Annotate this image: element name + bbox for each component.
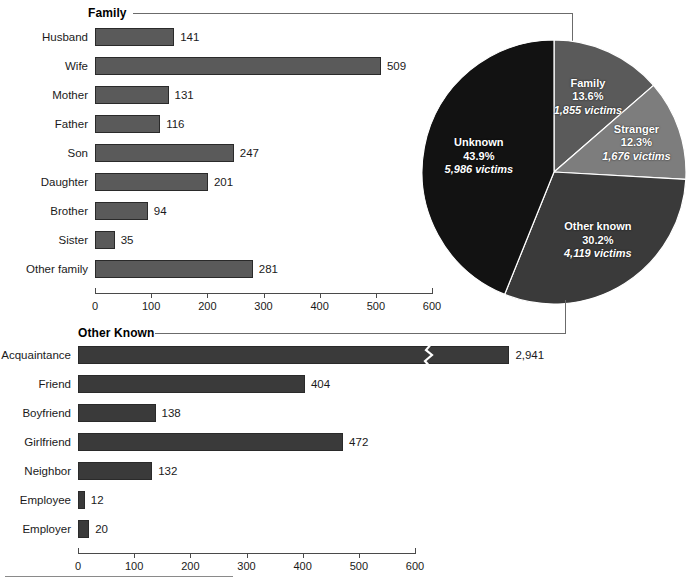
bar-value-label: 35 — [121, 229, 134, 251]
bar-segment — [78, 491, 85, 509]
section-title-other-known: Other Known — [78, 326, 154, 340]
x-axis-tick — [320, 293, 321, 298]
x-axis-tick — [151, 293, 152, 298]
pie-slice-percent: 12.3% — [576, 136, 690, 150]
bar-row: Employer20 — [0, 518, 440, 540]
bar-segment — [95, 86, 169, 104]
x-axis-tick-label: 500 — [334, 560, 384, 572]
bar-value-label: 281 — [259, 258, 278, 280]
pie-slice-label-unknown: Unknown43.9%5,986 victims — [419, 136, 539, 177]
bar-category-label: Husband — [0, 26, 88, 48]
pie-slice-name: Family — [528, 77, 648, 91]
bar-segment — [95, 260, 253, 278]
x-axis-tick — [376, 293, 377, 298]
pie-slice-label-stranger: Stranger12.3%1,676 victims — [576, 123, 690, 164]
x-axis-tick — [303, 553, 304, 558]
bar-category-label: Brother — [0, 200, 88, 222]
bar-category-label: Acquaintance — [0, 344, 71, 366]
bar-category-label: Son — [0, 142, 88, 164]
x-axis-tick — [247, 553, 248, 558]
x-axis-tick — [359, 553, 360, 558]
bar-category-label: Employer — [0, 518, 71, 540]
connector-other-known-vertical — [565, 300, 566, 334]
bar-value-label: 131 — [175, 84, 194, 106]
bar-value-label: 404 — [311, 373, 330, 395]
bar-category-label: Boyfriend — [0, 402, 71, 424]
x-axis-tick-label: 0 — [70, 300, 120, 312]
bar-row: Boyfriend138 — [0, 402, 440, 424]
bar-row: Son247 — [0, 142, 440, 164]
bar-category-label: Neighbor — [0, 460, 71, 482]
bar-value-label: 94 — [154, 200, 167, 222]
bar-row: Father116 — [0, 113, 440, 135]
bar-category-label: Wife — [0, 55, 88, 77]
bar-row: Employee12 — [0, 489, 440, 511]
x-axis-tick-label: 200 — [182, 300, 232, 312]
bar-value-label: 509 — [387, 55, 406, 77]
bar-value-label: 20 — [95, 518, 108, 540]
bar-segment — [95, 28, 174, 46]
bar-segment — [78, 433, 343, 451]
bar-row: Neighbor132 — [0, 460, 440, 482]
pie-slice-label-other-known: Other known30.2%4,119 victims — [538, 220, 658, 261]
connector-family-horizontal — [133, 13, 573, 14]
bar-chart-family: Husband141Wife509Mother131Father116Son24… — [0, 26, 440, 316]
bar-row: Sister35 — [0, 229, 440, 251]
bar-value-label: 116 — [166, 113, 184, 135]
x-axis-tick — [78, 548, 79, 554]
bar-row: Friend404 — [0, 373, 440, 395]
bar-chart-other-known: Acquaintance2,941Friend404Boyfriend138Gi… — [0, 344, 440, 576]
bar-value-label: 472 — [349, 431, 368, 453]
x-axis-tick — [207, 293, 208, 298]
bar-category-label: Mother — [0, 84, 88, 106]
bar-segment — [95, 115, 160, 133]
connector-other-known-horizontal — [155, 333, 565, 334]
x-axis-tick-label: 200 — [165, 560, 215, 572]
bar-category-label: Girlfriend — [0, 431, 71, 453]
x-axis-tick-label: 600 — [390, 560, 440, 572]
bar-segment — [95, 173, 208, 191]
pie-chart-victim-relationship: Family13.6%1,855 victimsStranger12.3%1,6… — [422, 40, 686, 304]
bar-segment — [95, 231, 115, 249]
x-axis-tick-label: 100 — [126, 300, 176, 312]
bar-value-label: 141 — [180, 26, 199, 48]
pie-slice-label-family: Family13.6%1,855 victims — [528, 77, 648, 118]
bar-row: Daughter201 — [0, 171, 440, 193]
pie-slice-victims: 5,986 victims — [419, 163, 539, 177]
bar-row: Acquaintance2,941 — [0, 344, 440, 366]
x-axis-tick-label: 100 — [109, 560, 159, 572]
bar-segment — [95, 57, 381, 75]
bar-value-label: 12 — [91, 489, 104, 511]
bar-value-label: 138 — [162, 402, 181, 424]
pie-slice-name: Stranger — [576, 123, 690, 137]
bar-row: Girlfriend472 — [0, 431, 440, 453]
bar-segment — [78, 346, 509, 364]
bar-row: Mother131 — [0, 84, 440, 106]
bar-segment — [78, 462, 152, 480]
x-axis-tick-label: 300 — [239, 300, 289, 312]
pie-slice-percent: 30.2% — [538, 234, 658, 248]
figure-canvas: Family Husband141Wife509Mother131Father1… — [0, 0, 690, 582]
x-axis-tick-label: 300 — [222, 560, 272, 572]
x-axis-tick — [134, 553, 135, 558]
x-axis-tick — [415, 548, 416, 554]
bar-segment — [78, 375, 305, 393]
x-axis-tick — [190, 553, 191, 558]
x-axis-tick-label: 400 — [278, 560, 328, 572]
bar-row: Other family281 — [0, 258, 440, 280]
bar-category-label: Employee — [0, 489, 71, 511]
x-axis-tick-label: 400 — [295, 300, 345, 312]
section-title-family: Family — [88, 6, 127, 20]
pie-slice-victims: 1,676 victims — [576, 150, 690, 164]
bar-category-label: Daughter — [0, 171, 88, 193]
bar-segment — [95, 144, 234, 162]
x-axis-tick — [264, 293, 265, 298]
bar-category-label: Other family — [0, 258, 88, 280]
footer-divider-rule — [5, 576, 233, 577]
pie-slice-victims: 1,855 victims — [528, 104, 648, 118]
bar-segment — [95, 202, 148, 220]
bar-segment — [78, 404, 156, 422]
bar-row: Husband141 — [0, 26, 440, 48]
bar-value-label: 2,941 — [515, 344, 544, 366]
bar-value-label: 201 — [214, 171, 233, 193]
